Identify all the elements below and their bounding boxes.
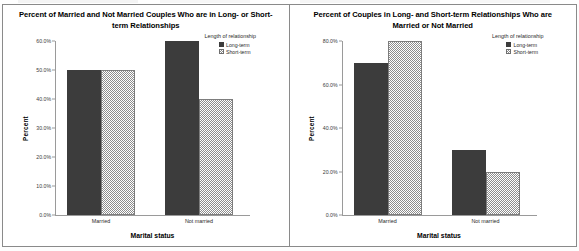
bar-not-married-long-term[interactable] xyxy=(452,150,486,215)
chart-panel-left: Percent of Married and Not Married Coupl… xyxy=(3,5,290,246)
bar-married-short-term[interactable] xyxy=(101,70,135,215)
bar-not-married-short-term[interactable] xyxy=(486,172,520,216)
bar-not-married-long-term[interactable] xyxy=(165,41,199,215)
bar-not-married-short-term[interactable] xyxy=(199,99,233,215)
x-axis-title-right: Marital status xyxy=(342,232,537,239)
bar-married-short-term[interactable] xyxy=(388,41,422,215)
x-axis-line-right xyxy=(342,215,537,216)
x-axis-line-left xyxy=(55,215,250,216)
bar-married-long-term[interactable] xyxy=(67,70,101,215)
legend-title-right: Length of relationship xyxy=(492,33,570,39)
y-axis-line-right xyxy=(342,41,343,216)
y-axis-line-left xyxy=(55,41,56,216)
figure-canvas: Percent of Married and Not Married Coupl… xyxy=(0,0,579,251)
x-axis-title-left: Marital status xyxy=(55,232,250,239)
bar-married-long-term[interactable] xyxy=(354,63,388,215)
chart-panel-right: Percent of Couples in Long- and Short-te… xyxy=(290,5,577,246)
y-axis-title-right: Percent xyxy=(306,41,318,216)
plot-area-left: 0.0% 10.0% 20.0% 30.0% 40.0% 50.0% 60.0% xyxy=(55,41,250,216)
plot-area-right: 0.0% 20.0% 40.0% 60.0% 80.0% Married Not… xyxy=(342,41,537,216)
chart-title-left: Percent of Married and Not Married Coupl… xyxy=(13,10,279,31)
legend-title-left: Length of relationship xyxy=(205,33,283,39)
chart-panel-group: Percent of Married and Not Married Coupl… xyxy=(2,4,577,247)
x-tick-label-not-married: Not married xyxy=(471,218,499,224)
y-axis-title-left: Percent xyxy=(19,41,31,216)
x-tick-label-married: Married xyxy=(378,218,396,224)
x-tick-label-not-married: Not married xyxy=(185,218,213,224)
chart-title-right: Percent of Couples in Long- and Short-te… xyxy=(300,10,567,31)
x-tick-label-married: Married xyxy=(92,218,110,224)
